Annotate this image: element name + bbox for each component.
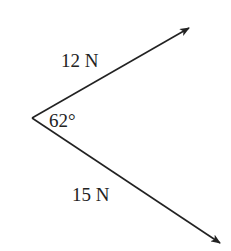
angle-label: 62° bbox=[49, 110, 76, 131]
upper-force-vector bbox=[32, 28, 189, 118]
lower-force-label: 15 N bbox=[72, 184, 110, 205]
force-diagram: 12 N 62° 15 N bbox=[0, 0, 231, 251]
upper-force-label: 12 N bbox=[61, 50, 99, 71]
lower-force-vector bbox=[32, 118, 220, 243]
